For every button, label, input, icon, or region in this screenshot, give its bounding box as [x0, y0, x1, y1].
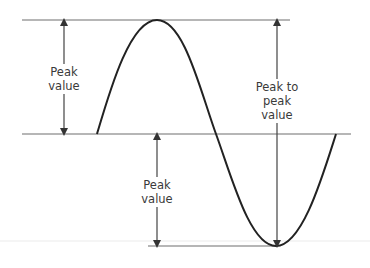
peak-to-peak-label-line3: value [249, 108, 305, 122]
peak-to-peak-label-line2: peak [249, 94, 305, 108]
lower-peak-label-line2: value [137, 192, 177, 206]
peak-to-peak-label-line1: Peak to [249, 80, 305, 94]
left-peak-label: Peak value [44, 64, 84, 94]
sine-curve [97, 20, 336, 246]
left-peak-label-line2: value [44, 79, 84, 93]
left-peak-label-line1: Peak [44, 65, 84, 79]
sine-wave-diagram [0, 0, 370, 268]
lower-peak-label: Peak value [137, 177, 177, 207]
lower-peak-label-line1: Peak [137, 178, 177, 192]
peak-to-peak-label: Peak to peak value [249, 79, 305, 123]
